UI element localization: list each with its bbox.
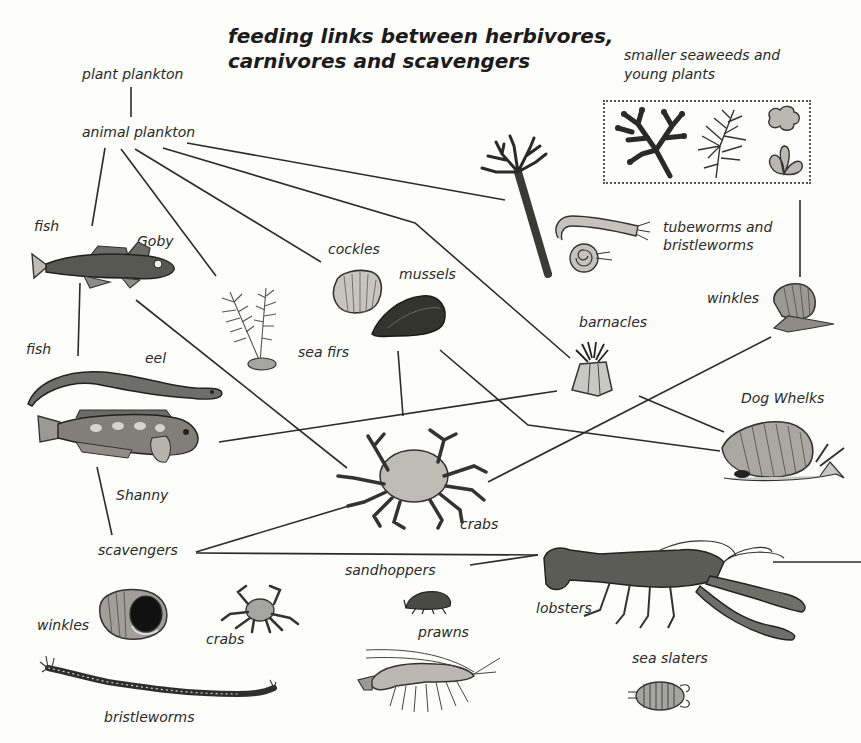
eel-icon: [26, 362, 228, 412]
sea-firs-icon: [212, 282, 286, 372]
small-crab-icon: [218, 584, 302, 634]
title-line-2: carnivores and scavengers: [228, 49, 613, 74]
label-bristleworms: bristleworms: [104, 709, 195, 726]
feathery-seaweed-icon: [694, 106, 750, 180]
label-fish-mid: fish: [26, 341, 51, 358]
seaweeds-label-line-1: smaller seaweeds and: [624, 46, 780, 65]
link-plankton-to-tubeworms: [187, 143, 505, 200]
bristleworm-icon: [38, 654, 278, 710]
seaweeds-label-line-2: young plants: [624, 65, 780, 84]
barnacle-icon: [568, 340, 616, 400]
tubeworm-colony-icon: [474, 132, 558, 278]
link-fish-to-fish: [78, 283, 80, 356]
sea-slater-icon: [626, 676, 692, 716]
label-shanny: Shanny: [116, 487, 168, 504]
label-sea-slaters: sea slaters: [632, 650, 708, 667]
link-barnacles-to-whelks: [639, 396, 724, 432]
label-dog-whelks: Dog Whelks: [741, 390, 824, 407]
winkle-shell-icon: [96, 586, 172, 644]
title-line-1: feeding links between herbivores,: [228, 24, 613, 49]
label-winkles-top: winkles: [707, 290, 759, 307]
branched-seaweed-icon: [612, 104, 692, 180]
label-sea-firs: sea firs: [298, 344, 349, 361]
goby-fish-icon: [30, 242, 178, 292]
lobster-icon: [540, 536, 812, 646]
link-sandhoppers-to-lobster: [470, 555, 538, 565]
seaweeds-group-label: smaller seaweeds and young plants: [624, 46, 780, 84]
label-plant-plankton: plant plankton: [82, 66, 183, 83]
link-plankton-to-fish: [92, 148, 105, 226]
label-prawns: prawns: [418, 624, 469, 641]
crab-icon: [334, 426, 490, 530]
sea-lettuce-icon: [764, 104, 804, 134]
prawn-icon: [356, 646, 504, 718]
diagram-title: feeding links between herbivores, carniv…: [228, 24, 613, 74]
label-scavengers: scavengers: [98, 542, 178, 559]
label-cockles: cockles: [328, 241, 380, 258]
shanny-fish-icon: [36, 408, 204, 478]
label-tubeworms-line-2: bristleworms: [663, 237, 754, 254]
label-tubeworms-line-1: tubeworms and: [663, 219, 772, 236]
food-web-diagram: feeding links between herbivores, carniv…: [0, 0, 861, 743]
winkle-icon: [768, 280, 838, 338]
label-winkles-bottom: winkles: [37, 617, 89, 634]
label-animal-plankton: animal plankton: [82, 124, 195, 141]
label-sandhoppers: sandhoppers: [345, 562, 436, 579]
spiral-tubeworm-icon: [566, 240, 616, 276]
dog-whelk-icon: [720, 418, 850, 486]
leafy-seaweed-icon: [764, 142, 806, 178]
label-mussels: mussels: [399, 266, 456, 283]
sandhopper-icon: [402, 588, 456, 614]
link-scavengers-to-crab: [196, 505, 352, 552]
label-fish-top: fish: [34, 218, 59, 235]
mussel-shell-icon: [368, 292, 450, 340]
link-scavengers-to-lobster: [196, 553, 538, 555]
link-mussels-to-crab: [398, 351, 403, 416]
label-barnacles: barnacles: [579, 314, 647, 331]
